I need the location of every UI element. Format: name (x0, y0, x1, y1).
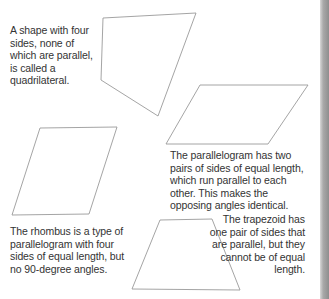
parallelogram-shape (166, 85, 308, 144)
trapezoid-caption: The trapezoid has one pair of sides that… (205, 213, 305, 276)
page-edge-strip (320, 0, 329, 299)
quadrilateral-caption: A shape with four sides, none of which a… (10, 24, 100, 87)
rhombus-caption: The rhombus is a type of parallelogram w… (10, 225, 130, 275)
parallelogram-caption: The parallelogram has two pairs of sides… (170, 149, 310, 212)
quadrilateral-shape (101, 13, 196, 116)
rhombus-shape (12, 127, 117, 215)
